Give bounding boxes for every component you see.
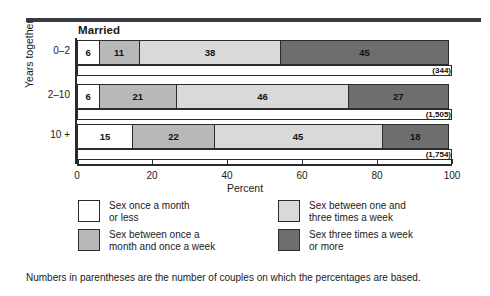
bar-segment-0-3: 45 <box>280 40 449 65</box>
x-axis-tick-100 <box>451 159 453 164</box>
y-category-label-2: 10 + <box>26 129 70 140</box>
x-tick-label-80: 80 <box>357 170 397 181</box>
base-count-1: (1,505) <box>426 110 451 119</box>
bar-segment-2-2: 45 <box>214 124 383 149</box>
stacked-bar-row-1: 6 21 46 27 <box>77 84 452 109</box>
base-count-2: (1,754) <box>426 150 451 159</box>
base-count-0: (344) <box>432 66 451 75</box>
y-category-label-0: 0–2 <box>26 45 70 56</box>
bar-segment-1-3: 27 <box>348 84 449 109</box>
figure-panel: Married Years together 0–2 2–10 10 + 6 1… <box>0 0 490 296</box>
legend-swatch-3 <box>278 229 300 251</box>
bar-baseline-strip-2 <box>77 149 452 160</box>
stacked-bar-row-0: 6 11 38 45 <box>77 40 452 65</box>
bar-segment-0-0: 6 <box>77 40 100 65</box>
x-axis-tick-40 <box>227 159 228 164</box>
top-divider-rule <box>26 18 481 22</box>
x-tick-label-60: 60 <box>282 170 322 181</box>
plot-area: 6 11 38 45 (344) 6 21 46 27 (1,505) 15 2… <box>77 38 452 164</box>
legend-swatch-1 <box>78 229 100 251</box>
bar-segment-0-2: 38 <box>139 40 282 65</box>
x-axis-tick-20 <box>152 159 153 164</box>
bar-segment-1-0: 6 <box>77 84 100 109</box>
bar-baseline-strip-0 <box>77 65 452 76</box>
x-axis-tick-0 <box>77 159 79 164</box>
bar-segment-2-1: 22 <box>132 124 215 149</box>
legend-item-2: Sex between one and three times a week <box>278 200 406 223</box>
x-tick-label-100: 100 <box>432 170 472 181</box>
y-category-label-1: 2–10 <box>26 89 70 100</box>
bar-segment-0-1: 11 <box>99 40 140 65</box>
bar-segment-1-2: 46 <box>176 84 349 109</box>
x-axis-title: Percent <box>0 182 490 194</box>
bar-baseline-strip-1 <box>77 109 452 120</box>
legend-label-2: Sex between one and three times a week <box>309 200 406 223</box>
x-tick-label-20: 20 <box>132 170 172 181</box>
bar-segment-1-1: 21 <box>99 84 178 109</box>
legend-swatch-0 <box>78 200 100 222</box>
bar-segment-2-0: 15 <box>77 124 133 149</box>
legend-item-3: Sex three times a week or more <box>278 229 413 252</box>
x-tick-label-0: 0 <box>57 170 97 181</box>
x-axis-line: 0 20 40 60 80 100 <box>77 164 452 166</box>
legend-label-3: Sex three times a week or more <box>309 229 413 252</box>
stacked-bar-row-2: 15 22 45 18 <box>77 124 452 149</box>
x-axis-tick-60 <box>302 159 303 164</box>
legend-swatch-2 <box>278 200 300 222</box>
legend-label-1: Sex between once a month and once a week <box>109 229 215 252</box>
bar-segment-2-3: 18 <box>382 124 450 149</box>
legend-item-0: Sex once a month or less <box>78 200 190 223</box>
figure-footnote: Numbers in parentheses are the number of… <box>26 272 421 283</box>
chart-legend: Sex once a month or less Sex between onc… <box>78 200 478 258</box>
chart-title: Married <box>78 24 120 36</box>
x-axis-tick-80 <box>377 159 378 164</box>
legend-item-1: Sex between once a month and once a week <box>78 229 215 252</box>
x-tick-label-40: 40 <box>207 170 247 181</box>
legend-label-0: Sex once a month or less <box>109 200 190 223</box>
